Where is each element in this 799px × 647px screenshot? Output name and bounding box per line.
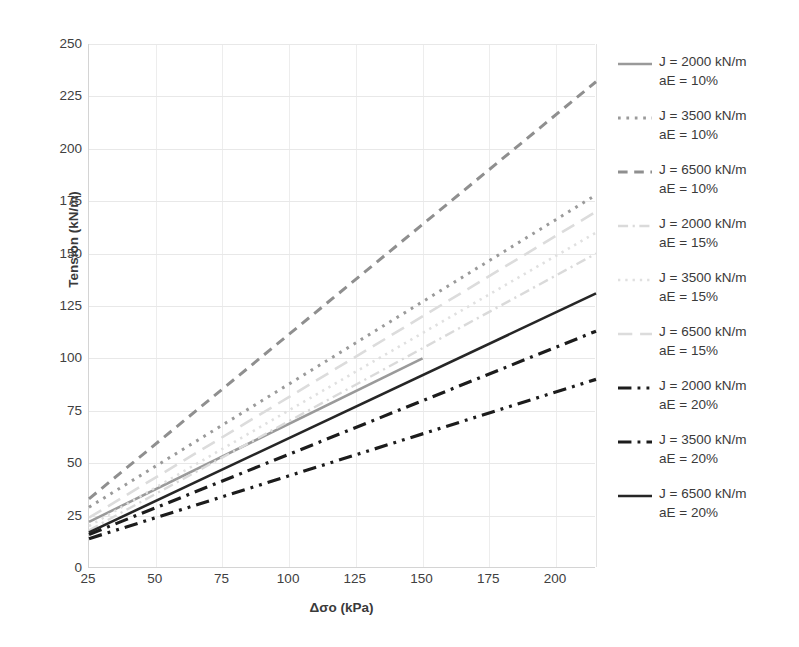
legend-label-line1: J = 3500 kN/m	[659, 106, 795, 125]
x-tick-label: 75	[196, 572, 246, 586]
gridline-vertical	[596, 44, 597, 567]
legend-label-line1: J = 2000 kN/m	[659, 376, 795, 395]
legend-item[interactable]: J = 6500 kN/maE = 15%	[617, 322, 795, 376]
legend-label-line2: aE = 15%	[659, 233, 795, 252]
legend-label-line1: J = 2000 kN/m	[659, 52, 795, 71]
x-tick-label: 50	[130, 572, 180, 586]
y-tick-label: 200	[36, 142, 82, 156]
legend-label-line2: aE = 10%	[659, 71, 795, 90]
legend-line-swatch	[617, 490, 653, 502]
legend-item[interactable]: J = 6500 kN/maE = 20%	[617, 484, 795, 538]
legend-line-swatch	[617, 166, 653, 178]
legend-label: J = 6500 kN/maE = 10%	[659, 160, 795, 198]
y-tick-label: 250	[36, 37, 82, 51]
legend-line-swatch	[617, 220, 653, 232]
legend-line-swatch	[617, 112, 653, 124]
plot-area	[88, 44, 595, 568]
legend-label-line2: aE = 15%	[659, 341, 795, 360]
x-axis-title: Δσo (kPa)	[88, 600, 595, 615]
y-tick-label: 50	[36, 456, 82, 470]
legend-item[interactable]: J = 3500 kN/maE = 20%	[617, 430, 795, 484]
legend-line-swatch	[617, 274, 653, 286]
chart-container: Tension (kN/m) 0255075100125150175200225…	[0, 0, 799, 647]
y-tick-label: 25	[36, 509, 82, 523]
y-tick-label: 125	[36, 299, 82, 313]
y-tick-label: 175	[36, 194, 82, 208]
x-tick-label: 200	[530, 572, 580, 586]
x-tick-label: 175	[463, 572, 513, 586]
legend-label-line1: J = 3500 kN/m	[659, 430, 795, 449]
legend-item[interactable]: J = 6500 kN/maE = 10%	[617, 160, 795, 214]
legend-label-line1: J = 6500 kN/m	[659, 484, 795, 503]
series-line	[89, 82, 596, 499]
legend-label: J = 3500 kN/maE = 10%	[659, 106, 795, 144]
y-tick-label: 100	[36, 351, 82, 365]
legend-label-line1: J = 2000 kN/m	[659, 214, 795, 233]
x-tick-label: 125	[330, 572, 380, 586]
legend-label-line1: J = 3500 kN/m	[659, 268, 795, 287]
legend-line-swatch	[617, 58, 653, 70]
legend-label: J = 2000 kN/maE = 20%	[659, 376, 795, 414]
legend-label: J = 2000 kN/maE = 15%	[659, 214, 795, 252]
legend-item[interactable]: J = 2000 kN/maE = 15%	[617, 214, 795, 268]
legend-label-line2: aE = 10%	[659, 179, 795, 198]
series-layer	[89, 44, 596, 568]
legend-line-swatch	[617, 436, 653, 448]
legend-line-swatch	[617, 382, 653, 394]
x-axis-tick-labels: 255075100125150175200	[88, 572, 595, 594]
legend-line-swatch	[617, 328, 653, 340]
series-line	[89, 293, 596, 532]
legend-label: J = 3500 kN/maE = 20%	[659, 430, 795, 468]
series-line	[89, 331, 596, 534]
legend-label: J = 2000 kN/maE = 10%	[659, 52, 795, 90]
legend-item[interactable]: J = 2000 kN/maE = 10%	[617, 52, 795, 106]
series-line	[89, 233, 596, 526]
x-tick-label: 25	[63, 572, 113, 586]
legend-label: J = 6500 kN/maE = 20%	[659, 484, 795, 522]
series-line	[89, 254, 596, 531]
legend-item[interactable]: J = 2000 kN/maE = 20%	[617, 376, 795, 430]
legend-label-line1: J = 6500 kN/m	[659, 160, 795, 179]
legend-item[interactable]: J = 3500 kN/maE = 10%	[617, 106, 795, 160]
legend-label-line2: aE = 20%	[659, 503, 795, 522]
chart-legend: J = 2000 kN/maE = 10%J = 3500 kN/maE = 1…	[617, 52, 795, 538]
series-line	[89, 379, 596, 538]
legend-item[interactable]: J = 3500 kN/maE = 15%	[617, 268, 795, 322]
series-line	[89, 212, 596, 518]
legend-label-line2: aE = 10%	[659, 125, 795, 144]
x-tick-label: 150	[397, 572, 447, 586]
legend-label-line2: aE = 20%	[659, 449, 795, 468]
legend-label-line2: aE = 15%	[659, 287, 795, 306]
legend-label: J = 3500 kN/maE = 15%	[659, 268, 795, 306]
legend-label: J = 6500 kN/maE = 15%	[659, 322, 795, 360]
legend-label-line2: aE = 20%	[659, 395, 795, 414]
y-tick-label: 75	[36, 404, 82, 418]
x-tick-label: 100	[263, 572, 313, 586]
series-line	[89, 358, 423, 521]
legend-label-line1: J = 6500 kN/m	[659, 322, 795, 341]
y-tick-label: 225	[36, 89, 82, 103]
y-axis-tick-labels: 0255075100125150175200225250	[30, 44, 82, 568]
y-tick-label: 150	[36, 247, 82, 261]
